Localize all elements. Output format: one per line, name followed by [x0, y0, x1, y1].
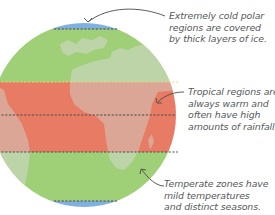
temperate-annotation: Temperate zones have mild temperatures a…	[164, 178, 268, 213]
temperate-annotation-line: Temperate zones have	[164, 178, 268, 190]
tropical-annotation-line: amounts of rainfall.	[188, 121, 275, 133]
tropical-annotation-line: often have high	[188, 109, 275, 121]
tropical-annotation: Tropical regions are always warm and oft…	[188, 86, 275, 132]
polar-annotation-line: by thick layers of ice.	[169, 33, 267, 45]
tropical-annotation-line: Tropical regions are	[188, 86, 275, 98]
polar-annotation-line: Extremely cold polar	[169, 10, 267, 22]
tropical-annotation-line: always warm and	[188, 98, 275, 110]
polar-annotation-line: regions are covered	[169, 22, 267, 34]
temperate-annotation-line: mild temperatures	[164, 190, 268, 202]
temperate-annotation-line: and distinct seasons.	[164, 201, 268, 213]
polar-arrow	[88, 9, 165, 22]
polar-annotation: Extremely cold polar regions are covered…	[169, 10, 267, 45]
